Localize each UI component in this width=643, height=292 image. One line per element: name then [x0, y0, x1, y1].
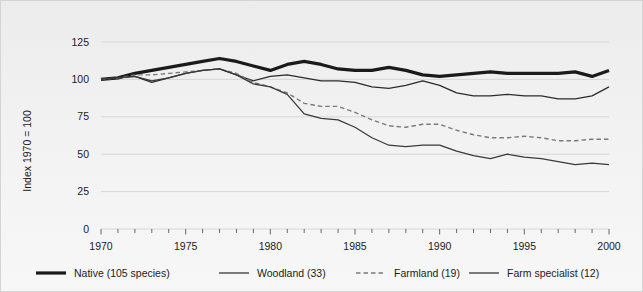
data-series-group — [101, 58, 609, 164]
y-axis-title: Index 1970 = 100 — [21, 110, 33, 192]
legend-label-1[interactable]: Woodland (33) — [257, 267, 326, 279]
chart-figure: 0255075100125 19701975198019851990199520… — [0, 0, 643, 292]
y-tick-label: 100 — [71, 73, 89, 85]
x-tick-label: 2000 — [597, 240, 621, 252]
x-tick-labels: 1970197519801985199019952000 — [89, 240, 621, 252]
chart-legend: Native (105 species)Woodland (33)Farmlan… — [36, 267, 599, 279]
line-chart: 0255075100125 19701975198019851990199520… — [1, 1, 643, 292]
y-tick-label: 50 — [77, 148, 89, 160]
x-tick-label: 1970 — [89, 240, 113, 252]
legend-label-3[interactable]: Farm specialist (12) — [507, 267, 599, 279]
x-tick-label: 1995 — [513, 240, 537, 252]
x-tick-label: 1985 — [343, 240, 367, 252]
x-tick-marks — [101, 229, 609, 235]
x-tick-label: 1990 — [428, 240, 452, 252]
x-tick-label: 1980 — [259, 240, 283, 252]
y-tick-labels: 0255075100125 — [71, 36, 89, 235]
y-tick-label: 125 — [71, 36, 89, 48]
legend-label-0[interactable]: Native (105 species) — [74, 267, 170, 279]
y-tick-label: 25 — [77, 185, 89, 197]
y-tick-label: 75 — [77, 110, 89, 122]
legend-label-2[interactable]: Farmland (19) — [394, 267, 460, 279]
y-tick-label: 0 — [83, 223, 89, 235]
x-tick-label: 1975 — [174, 240, 198, 252]
